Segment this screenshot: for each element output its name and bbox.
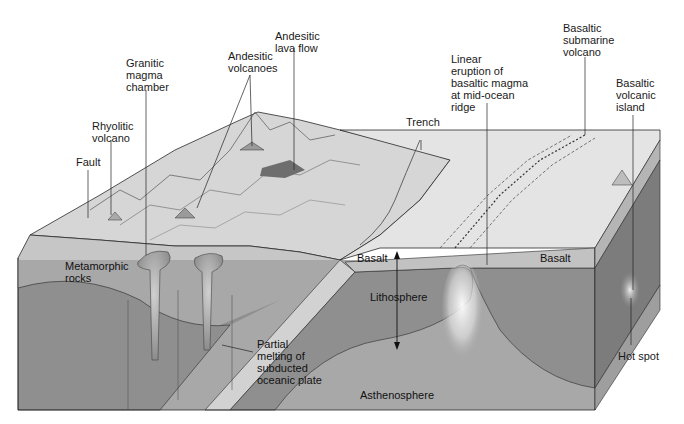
label-basalt-left: Basalt <box>357 252 388 264</box>
label-asthenosphere: Asthenosphere <box>360 389 434 401</box>
label-partial-melting: Partial melting of subducted oceanic pla… <box>257 338 322 386</box>
label-trench: Trench <box>406 116 440 128</box>
label-hot-spot: Hot spot <box>618 350 659 362</box>
label-fault: Fault <box>76 156 100 168</box>
label-andesitic-lava-flow: Andesitic lava flow <box>275 30 320 54</box>
label-andesitic-volcanoes: Andesitic volcanoes <box>228 50 278 74</box>
label-basalt-right: Basalt <box>540 252 571 264</box>
label-basaltic-volcanic-island: Basaltic volcanic island <box>616 77 656 113</box>
label-rhyolitic-volcano: Rhyolitic volcano <box>92 120 134 144</box>
block-diagram-illustration <box>0 0 684 424</box>
tectonic-block-diagram: Andesitic lava flow Granitic magma chamb… <box>0 0 684 424</box>
label-lithosphere: Lithosphere <box>370 291 428 303</box>
label-granitic-magma-chamber: Granitic magma chamber <box>126 57 169 93</box>
label-basaltic-submarine-volcano: Basaltic submarine volcano <box>563 22 614 58</box>
label-linear-eruption: Linear eruption of basaltic magma at mid… <box>451 53 528 113</box>
label-metamorphic-rocks: Metamorphic rocks <box>65 260 129 284</box>
